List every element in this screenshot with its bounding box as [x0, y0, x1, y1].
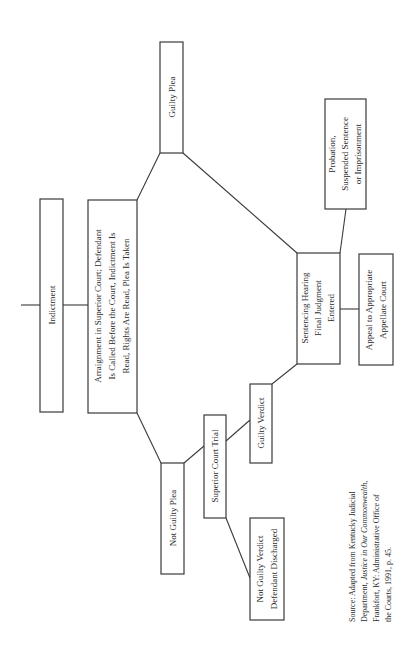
- node-not-guilty-verdict: Not Guilty Verdict Defendant Discharged: [250, 518, 284, 620]
- node-guilty-plea: Guilty Plea: [160, 42, 183, 153]
- source-line-3: Frankfort, KY: Administrative Office of: [372, 494, 381, 622]
- source-line-1: Source: Adapted from Kentucky Judicial: [348, 491, 357, 622]
- node-label: Appellate Court: [378, 281, 388, 339]
- node-label: Final Judgment: [313, 280, 323, 336]
- source-line-2: Department, Justice in Our Commonwealth,: [360, 481, 369, 622]
- node-not-guilty-plea: Not Guilty Plea: [161, 463, 184, 574]
- node-label: Guilty Plea: [167, 77, 177, 118]
- edge-sentencing-probation: [340, 209, 346, 253]
- node-appeal: Appeal to Appropriate Appellate Court: [359, 254, 393, 365]
- node-label: Indictment: [47, 285, 57, 324]
- node-label: Entered: [326, 294, 336, 322]
- node-sentencing-hearing: Sentencing Hearing Final Judgment Entere…: [297, 253, 340, 364]
- node-label: Sentencing Hearing: [300, 272, 310, 344]
- source-note: Source: Adapted from Kentucky Judicial D…: [348, 481, 393, 622]
- node-label: Not Guilty Plea: [168, 490, 178, 547]
- node-label: Read, Rights Are Read, Plea Is Taken: [121, 238, 131, 374]
- node-label: Not Guilty Verdict: [255, 535, 265, 602]
- edge-guilty-verdict-sentencing: [272, 364, 297, 384]
- source-line-4: the Courts, 1991, p. 45.: [384, 547, 393, 622]
- source-line-2b-title: Justice in Our Commonwealth,: [360, 481, 369, 581]
- node-indictment: Indictment: [40, 199, 63, 412]
- edge-arraignment-not-guilty-plea: [137, 413, 161, 463]
- node-label: Guilty Verdict: [256, 397, 266, 449]
- node-label: Probation,: [327, 135, 337, 172]
- flowchart: Indictment Arraignment in Superior Court…: [0, 0, 414, 656]
- edge-trial-guilty-verdict: [226, 420, 250, 441]
- edge-not-guilty-plea-trial: [184, 446, 204, 463]
- node-label: Appeal to Appropriate: [364, 270, 374, 350]
- node-label: Superior Court Trial: [210, 429, 220, 503]
- node-label: Is Called Before the Court, Indictment I…: [107, 232, 117, 380]
- edge-guilty-plea-sentencing: [183, 153, 297, 253]
- node-label: or Imprisonment: [353, 123, 363, 184]
- node-superior-court-trial: Superior Court Trial: [204, 415, 226, 518]
- node-arraignment: Arraignment in Superior Court; Defendant…: [88, 200, 137, 413]
- node-probation: Probation, Suspended Sentence or Impriso…: [325, 99, 366, 209]
- node-label: Suspended Sentence: [340, 117, 350, 191]
- edge-trial-not-guilty-verdict: [226, 518, 250, 578]
- connectors: [21, 153, 359, 578]
- source-line-2a: Department,: [360, 580, 369, 622]
- node-label: Defendant Discharged: [269, 528, 279, 609]
- node-guilty-verdict: Guilty Verdict: [250, 384, 272, 463]
- node-label: Arraignment in Superior Court; Defendant: [93, 229, 103, 383]
- edge-arraignment-guilty-plea: [137, 153, 160, 200]
